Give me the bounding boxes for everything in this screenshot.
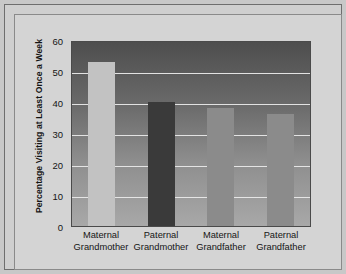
bar-maternal-grandmother[interactable] [88, 62, 115, 226]
bar-series [72, 42, 310, 226]
bar-slot-2 [132, 42, 192, 226]
x-axis-category-labels: MaternalGrandmotherPaternalGrandmotherMa… [71, 230, 311, 253]
x-label-line1: Maternal [203, 230, 239, 240]
y-tick-label-50: 50 [52, 67, 63, 78]
y-tick-label-30: 30 [52, 129, 63, 140]
y-tick-label-20: 20 [52, 160, 63, 171]
x-label-line2: Grandmother [131, 242, 191, 254]
x-label-line2: Grandfather [251, 242, 311, 254]
bar-slot-4 [251, 42, 311, 226]
figure-inner-border: Percentage Visiting at Least Once a Week… [14, 14, 342, 270]
x-label-2: PaternalGrandmother [131, 230, 191, 253]
plot-area [71, 41, 311, 227]
x-label-line2: Grandmother [71, 242, 131, 254]
figure-container: Percentage Visiting at Least Once a Week… [0, 0, 346, 274]
x-label-3: MaternalGrandfather [191, 230, 251, 253]
figure-outer-border: Percentage Visiting at Least Once a Week… [4, 4, 342, 270]
y-tick-label-0: 0 [58, 222, 63, 233]
bar-maternal-grandfather[interactable] [207, 108, 234, 226]
y-tick-label-60: 60 [52, 36, 63, 47]
bar-paternal-grandfather[interactable] [267, 114, 294, 226]
x-label-line1: Maternal [83, 230, 119, 240]
x-label-1: MaternalGrandmother [71, 230, 131, 253]
y-tick-label-40: 40 [52, 98, 63, 109]
bar-slot-3 [191, 42, 251, 226]
x-label-line2: Grandfather [191, 242, 251, 254]
y-tick-label-10: 10 [52, 191, 63, 202]
bar-slot-1 [72, 42, 132, 226]
x-label-line1: Paternal [264, 230, 299, 240]
bar-paternal-grandmother[interactable] [148, 102, 175, 226]
x-label-4: PaternalGrandfather [251, 230, 311, 253]
y-axis-tick-labels: 6050403020100 [41, 41, 67, 227]
x-label-line1: Paternal [144, 230, 179, 240]
